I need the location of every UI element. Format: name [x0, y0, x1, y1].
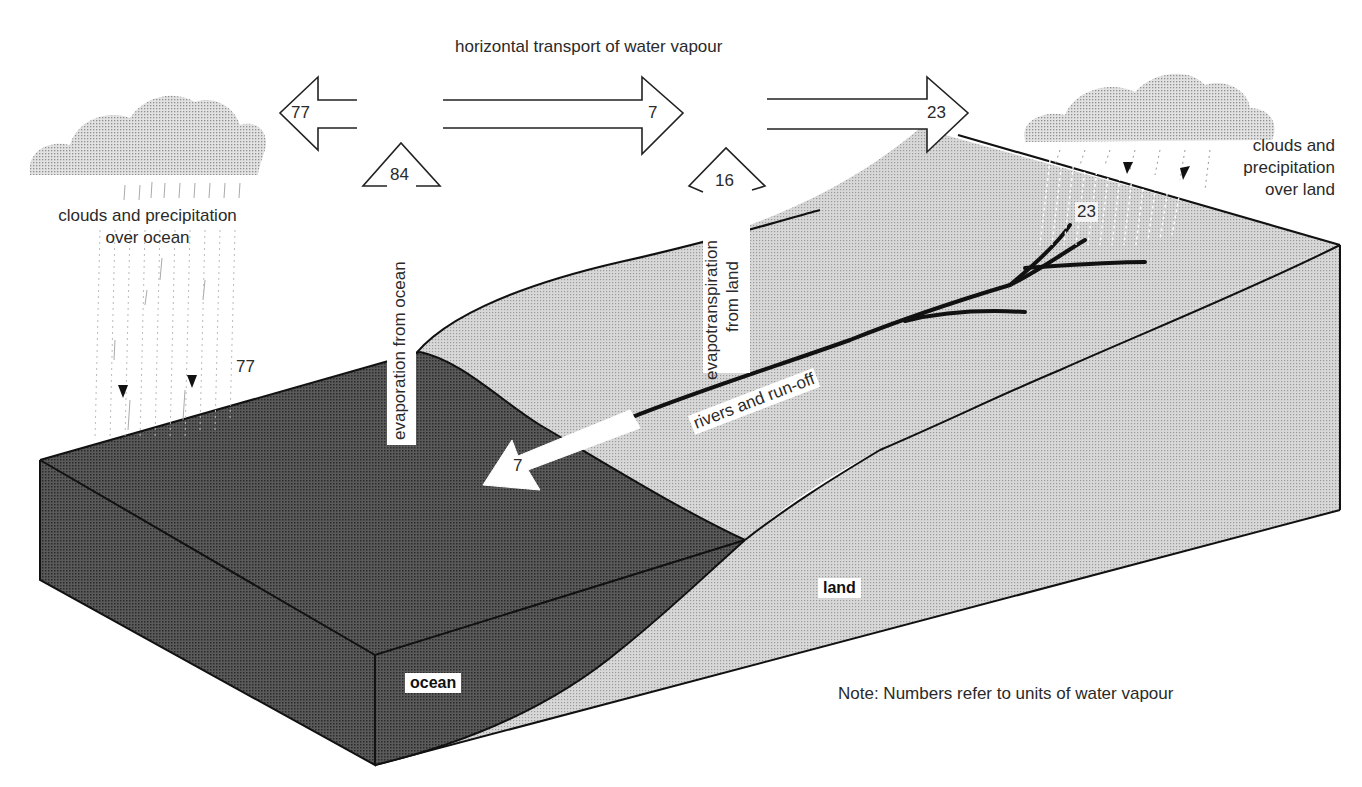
evapotranspiration-value: 16	[715, 171, 734, 191]
clouds-ocean-line2: over ocean	[20, 227, 275, 249]
evapotranspiration-label-line2: from land	[723, 261, 743, 332]
clouds-ocean-value: 77	[236, 357, 255, 377]
arrow-value-7-right: 7	[648, 103, 657, 123]
horizontal-arrow-right-7	[443, 77, 683, 154]
clouds-land-line3: over land	[1190, 179, 1335, 201]
clouds-land-line2: precipitation	[1190, 157, 1335, 179]
river-value: 7	[513, 456, 522, 476]
clouds-land-line1: clouds and	[1190, 135, 1335, 157]
clouds-land-value: 23	[1075, 202, 1098, 222]
cloud-ocean-icon	[30, 96, 266, 440]
ocean-label: ocean	[405, 673, 461, 693]
evaporation-ocean-value: 84	[390, 165, 409, 185]
footnote: Note: Numbers refer to units of water va…	[838, 683, 1173, 705]
land-label: land	[818, 578, 861, 598]
clouds-land-label: clouds and precipitation over land	[1190, 135, 1335, 201]
arrow-value-23-right: 23	[927, 103, 946, 123]
clouds-ocean-line1: clouds and precipitation	[20, 205, 275, 227]
evapotranspiration-label-line1: evapotranspiration	[702, 240, 722, 380]
water-cycle-diagram: horizontal transport of water vapour 77 …	[0, 0, 1362, 787]
evaporation-ocean-label: evaporation from ocean	[390, 261, 410, 440]
clouds-ocean-label: clouds and precipitation over ocean	[20, 205, 275, 249]
diagram-title: horizontal transport of water vapour	[455, 36, 722, 58]
arrow-value-77-left: 77	[291, 103, 310, 123]
